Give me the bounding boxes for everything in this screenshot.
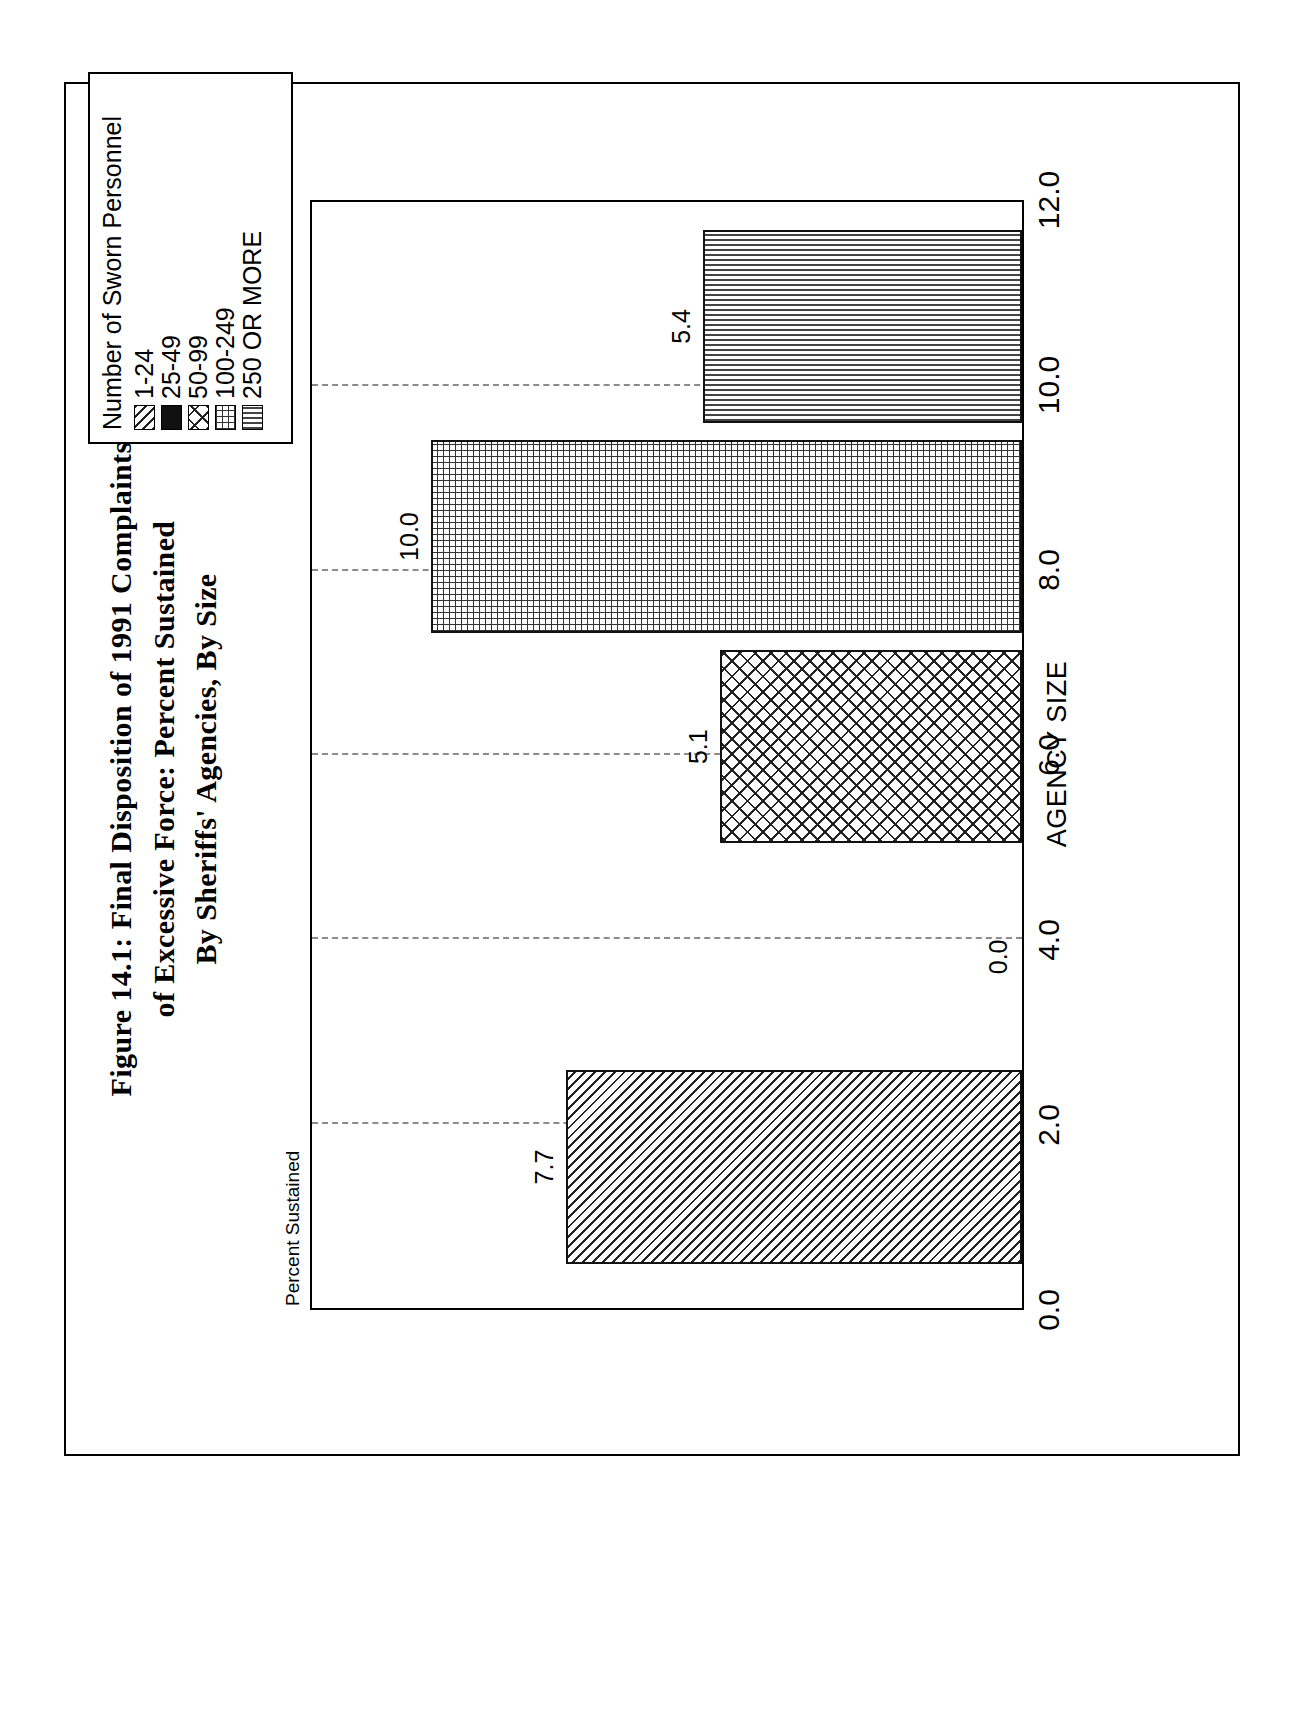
bar-value-250-or-more: 5.4	[667, 309, 696, 344]
bar-value-1-24: 7.7	[530, 1150, 559, 1185]
legend-item-100-249[interactable]: 100-249	[212, 86, 239, 430]
bar-value-100-249: 10.0	[395, 512, 424, 561]
category-axis-label: AGENCY SIZE	[1042, 52, 1073, 1456]
plot-area: 7.7 0.0 5.1 10.0 5.4	[310, 200, 1024, 1310]
legend-item-50-99[interactable]: 50-99	[185, 86, 212, 430]
bar-value-25-49: 0.0	[984, 939, 1013, 974]
bar-1-24[interactable]: 7.7	[566, 1070, 1022, 1264]
legend-item-250-or-more[interactable]: 250 OR MORE	[239, 86, 266, 430]
legend-label-25-49: 25-49	[159, 335, 184, 399]
legend-swatch-fine-grid-icon	[215, 405, 236, 430]
legend-item-25-49[interactable]: 25-49	[158, 86, 185, 430]
bar-50-99[interactable]: 5.1	[720, 650, 1022, 844]
bar-value-50-99: 5.1	[684, 729, 713, 764]
gridline-4	[312, 937, 1022, 939]
legend-swatch-diagonal-hatch-icon	[134, 405, 155, 430]
legend-label-250-or-more: 250 OR MORE	[240, 231, 265, 399]
bar-250-or-more[interactable]: 5.4	[703, 230, 1023, 424]
legend-item-1-24[interactable]: 1-24	[131, 86, 158, 430]
legend-label-100-249: 100-249	[213, 307, 238, 399]
value-axis-label: Percent Sustained	[282, 1151, 304, 1306]
legend-swatch-solid-black-icon	[161, 405, 182, 430]
legend: Number of Sworn Personnel 1-24 25-49 50-…	[88, 72, 293, 444]
legend-label-50-99: 50-99	[186, 335, 211, 399]
legend-title: Number of Sworn Personnel	[98, 86, 127, 430]
legend-label-1-24: 1-24	[132, 349, 157, 399]
legend-swatch-cross-hatch-icon	[188, 405, 209, 430]
rotated-figure-canvas: Figure 14.1: Final Disposition of 1991 C…	[64, 82, 1240, 1456]
legend-swatch-vertical-lines-icon	[242, 405, 263, 430]
page-border: Figure 14.1: Final Disposition of 1991 C…	[64, 82, 1240, 1456]
bar-100-249[interactable]: 10.0	[431, 440, 1022, 634]
